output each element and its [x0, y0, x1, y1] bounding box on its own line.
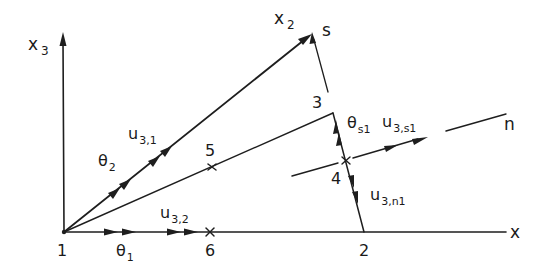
s-axis-label: s [322, 20, 331, 40]
x3-axis-line [63, 40, 64, 232]
thetas1-label: θs1 [347, 113, 371, 136]
u3s1-double-arrow-icon [384, 137, 428, 152]
theta2-double-arrow-icon [108, 179, 131, 199]
node-5-label: 5 [205, 141, 215, 160]
node-4-label: 4 [331, 169, 341, 188]
n-axis-label: n [504, 114, 515, 134]
x3-axis-arrow-icon [60, 32, 67, 46]
u3s1-label: u3,s1 [382, 112, 416, 135]
x3-axis-label: x3 [28, 34, 49, 58]
x2-axis-label: x2 [274, 8, 295, 32]
s-direction-line [314, 40, 328, 92]
u32-label: u3,2 [160, 203, 189, 226]
u31-double-arrow-icon [148, 146, 172, 167]
node-1-label: 1 [57, 241, 67, 260]
u3n1-label: u3,n1 [370, 185, 406, 208]
finite-element-diagram: x3 x x2 s θ2 u3,1 5 3 θs1 u3,n1 [0, 0, 544, 265]
u31-label: u3,1 [128, 124, 157, 147]
s-direction-arrow-icon [310, 32, 317, 44]
edge-1-3 [64, 113, 333, 232]
node-2-label: 2 [359, 241, 369, 260]
x-axis-label: x [510, 222, 520, 242]
thetas1-double-arrow-icon [333, 120, 342, 146]
node-3-label: 3 [312, 93, 322, 112]
theta2-label: θ2 [98, 151, 116, 174]
n-line-right-segment [446, 114, 506, 131]
x2-axis-line [64, 40, 304, 232]
theta1-label: θ1 [116, 241, 134, 264]
node-1-marker [62, 230, 66, 234]
node-5-marker [208, 164, 216, 170]
node-6-label: 6 [205, 241, 215, 260]
